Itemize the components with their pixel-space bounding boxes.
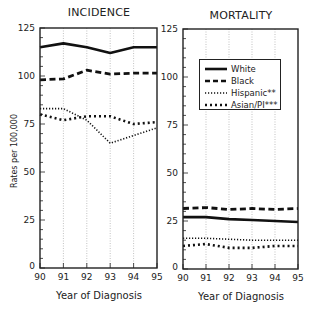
dashed-line-swatch-icon	[205, 78, 229, 84]
charts-canvas: 9091929394950255075100125909192939495025…	[0, 0, 316, 318]
legend-label-black: Black	[231, 76, 254, 86]
x-tick-label: 93	[104, 272, 115, 282]
y-tick-label: 125	[18, 23, 35, 33]
series-line-asianpi	[40, 114, 157, 124]
incidence-plot: 9091929394950255075100125	[18, 23, 163, 282]
legend: White Black Hispanic** Asian/PI***	[199, 59, 281, 110]
x-tick-label: 95	[292, 273, 303, 283]
y-tick-label: 0	[172, 262, 178, 272]
series-line-asianpi	[183, 244, 298, 248]
x-tick-label: 94	[269, 273, 281, 283]
y-tick-label: 25	[167, 216, 178, 226]
heavy-dotted-line-swatch-icon	[205, 102, 229, 108]
series-line-white	[183, 217, 298, 222]
y-tick-label: 0	[29, 261, 35, 271]
y-tick-label: 50	[167, 168, 179, 178]
x-tick-label: 92	[223, 273, 234, 283]
x-tick-label: 91	[58, 272, 69, 282]
legend-item-black: Black	[205, 75, 254, 86]
x-tick-label: 93	[246, 273, 257, 283]
y-tick-label: 25	[24, 215, 35, 225]
x-tick-label: 94	[128, 272, 140, 282]
series-line-black	[183, 208, 298, 210]
legend-item-white: White	[205, 63, 256, 74]
x-tick-label: 92	[81, 272, 92, 282]
series-line-black	[40, 70, 157, 80]
series-line-white	[40, 43, 157, 53]
y-tick-label: 75	[24, 119, 35, 129]
legend-label-hispanic: Hispanic**	[231, 88, 276, 98]
y-tick-label: 100	[161, 72, 178, 82]
legend-label-white: White	[231, 64, 256, 74]
fine-dotted-line-swatch-icon	[205, 90, 229, 96]
legend-label-asian: Asian/PI***	[231, 100, 277, 110]
series-line-hispanic	[183, 238, 298, 240]
y-tick-label: 75	[167, 120, 178, 130]
y-tick-label: 50	[24, 167, 36, 177]
series-line-hispanic	[40, 109, 157, 144]
legend-item-asian: Asian/PI***	[205, 99, 277, 110]
solid-line-swatch-icon	[205, 66, 229, 72]
x-tick-label: 91	[200, 273, 211, 283]
x-tick-label: 95	[151, 272, 162, 282]
plot-frame	[40, 28, 157, 268]
x-tick-label: 90	[34, 272, 46, 282]
y-tick-label: 125	[161, 24, 178, 34]
y-tick-label: 100	[18, 71, 35, 81]
legend-item-hispanic: Hispanic**	[205, 87, 276, 98]
x-tick-label: 90	[177, 273, 189, 283]
